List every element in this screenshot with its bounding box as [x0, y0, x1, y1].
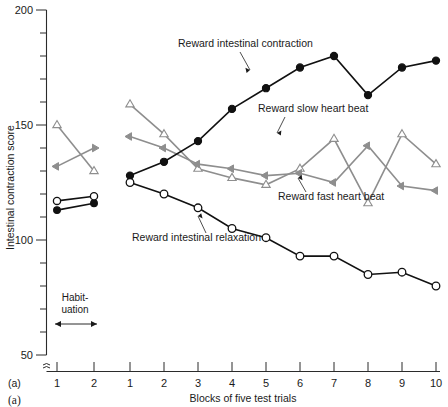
marker-contraction-7 [330, 52, 337, 59]
x-axis: 1 2 1 2 3 4 5 6 7 8 9 10 [47, 362, 443, 389]
x-tick-label-10: 10 [430, 377, 442, 389]
annotation-slow-heart-beat: Reward slow heart beat [258, 102, 368, 136]
series-intestinal-contraction [126, 52, 439, 179]
y-tick-label-150: 150 [15, 119, 33, 131]
marker-slow-heart-7 [329, 179, 336, 187]
marker-contraction-6 [296, 64, 303, 71]
marker-contraction-10 [432, 57, 439, 64]
habituation-marker-slow-heart-1 [52, 163, 59, 171]
annotation-label-relaxation: Reward intestinal relaxation [132, 231, 261, 243]
y-tick-label-200: 200 [15, 4, 33, 16]
axis-break-icon [43, 364, 50, 366]
habituation-label-line1: Habit- [62, 292, 89, 303]
habituation-marker-contraction-1 [54, 207, 61, 214]
marker-contraction-5 [262, 85, 269, 92]
x-tick-label-6: 6 [297, 377, 303, 389]
habituation-line-relaxation [57, 196, 94, 201]
marker-contraction-2 [160, 158, 167, 165]
habituation-marker-relaxation-1 [53, 197, 60, 204]
x-tick-label-7: 7 [331, 377, 337, 389]
marker-contraction-3 [194, 138, 201, 145]
axis-break-icon-2 [43, 367, 50, 369]
x-tick-label-2: 2 [161, 377, 167, 389]
series-line-slow-heart-beat [130, 137, 436, 191]
habituation-marker-slow-heart-2 [93, 144, 100, 152]
habituation-label-line2: uation [61, 304, 88, 315]
x-tick-label-1: 1 [127, 377, 133, 389]
marker-relaxation-9 [398, 268, 406, 276]
marker-fast-heart-7 [330, 134, 338, 141]
habituation-line-contraction [57, 203, 94, 210]
annotation-label-contraction: Reward intestinal contraction [178, 37, 313, 49]
marker-slow-heart-4 [227, 165, 234, 173]
marker-fast-heart-1 [126, 100, 134, 107]
y-axis: 200 150 100 50 [15, 4, 50, 368]
x-axis-title: Blocks of five test trials [190, 392, 297, 404]
panel-label-caption: (a) [8, 394, 21, 407]
marker-relaxation-1 [126, 179, 134, 187]
marker-contraction-9 [398, 64, 405, 71]
y-tick-label-100: 100 [15, 234, 33, 246]
leader-slow-heart [277, 117, 285, 133]
habituation-marker-fast-heart-1 [53, 121, 61, 128]
marker-slow-heart-2 [159, 144, 166, 152]
x-tick-label-9: 9 [399, 377, 405, 389]
marker-slow-heart-10 [431, 187, 438, 195]
marker-relaxation-8 [364, 271, 372, 279]
marker-contraction-8 [364, 92, 371, 99]
marker-relaxation-5 [262, 234, 270, 242]
habituation-arrow-left-icon [55, 321, 61, 327]
x-tick-label-3: 3 [195, 377, 201, 389]
x-tick-label-4: 4 [229, 377, 235, 389]
marker-relaxation-7 [330, 252, 338, 260]
marker-contraction-4 [228, 105, 235, 112]
marker-slow-heart-5 [261, 172, 268, 180]
habituation-arrow-right-icon [91, 321, 97, 327]
y-axis-title: Intestinal contraction score [4, 125, 16, 250]
marker-relaxation-6 [296, 252, 304, 260]
annotation-intestinal-relaxation: Reward intestinal relaxation [132, 213, 261, 243]
habituation-marker-contraction-2 [91, 200, 98, 207]
x-tick-label-habit-2: 2 [91, 377, 97, 389]
figure-container: 200 150 100 50 Intestinal contraction sc… [0, 0, 448, 407]
marker-fast-heart-9 [398, 130, 406, 137]
annotation-label-fast-heart: Reward fast heart beat [278, 190, 384, 202]
marker-relaxation-2 [160, 190, 168, 198]
annotation-intestinal-contraction: Reward intestinal contraction [178, 37, 313, 73]
habituation-marker-relaxation-2 [90, 193, 97, 200]
habituation-series-group [52, 121, 99, 214]
line-chart: 200 150 100 50 Intestinal contraction sc… [0, 0, 448, 407]
x-tick-label-habit-1: 1 [54, 377, 60, 389]
habituation-marker: Habit- uation [55, 292, 97, 327]
marker-slow-heart-1 [125, 133, 132, 141]
annotation-fast-heart-beat: Reward fast heart beat [278, 175, 384, 202]
x-tick-label-5: 5 [263, 377, 269, 389]
panel-label: (a) [8, 377, 21, 389]
x-tick-label-8: 8 [365, 377, 371, 389]
marker-relaxation-10 [432, 282, 440, 290]
y-tick-label-50: 50 [21, 349, 33, 361]
marker-relaxation-3 [194, 204, 202, 212]
annotation-label-slow-heart: Reward slow heart beat [258, 102, 368, 114]
leader-contraction [240, 52, 250, 70]
